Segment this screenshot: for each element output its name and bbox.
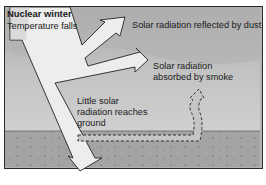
- temperature-falls-label: Temperature falls: [7, 21, 77, 32]
- absorbed-by-smoke-label-line1: Solar radiation: [153, 61, 212, 72]
- absorbed-by-smoke-label-line2: absorbed by smoke: [153, 72, 233, 83]
- little-radiation-label-line2: radiation reaches: [77, 107, 147, 118]
- reflected-by-dust-label: Solar radiation reflected by dust: [132, 20, 261, 31]
- little-radiation-label-line3: ground: [77, 118, 106, 129]
- diagram-title: Nuclear winter: [7, 8, 72, 19]
- little-radiation-label-line1: Little solar: [77, 96, 119, 107]
